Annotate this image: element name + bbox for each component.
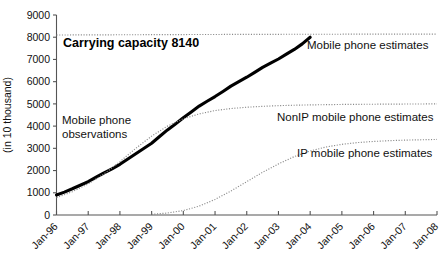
x-tick-label: Jan-97 <box>60 220 91 251</box>
x-tick-label: Jan-03 <box>251 220 282 251</box>
x-tick-label: Jan-00 <box>156 220 187 251</box>
annotation-layer: Carrying capacity 8140Mobile phoneobserv… <box>62 36 434 159</box>
y-axis-title: (in 10 thousand) <box>1 77 13 153</box>
mobile-phone-observations-label-line2: observations <box>62 128 127 140</box>
ip-mobile-phone-estimates-label: IP mobile phone estimates <box>297 147 433 159</box>
logistic-growth-line-chart: 0100020003000400050006000700080009000(in… <box>0 0 443 259</box>
y-tick-label: 9000 <box>27 9 51 21</box>
nonip-mobile-phone-estimates-label: NonIP mobile phone estimates <box>277 111 434 123</box>
y-tick-label: 0 <box>44 209 50 221</box>
y-tick-label: 3000 <box>27 142 51 154</box>
x-tick-label: Jan-04 <box>282 220 313 251</box>
y-tick-label: 7000 <box>27 53 51 65</box>
x-tick-label: Jan-96 <box>29 220 60 251</box>
mobile-phone-observations-label: Mobile phone <box>62 114 131 126</box>
y-tick-label: 4000 <box>27 120 51 132</box>
y-tick-label: 6000 <box>27 75 51 87</box>
y-tick-label: 8000 <box>27 31 51 43</box>
chart-container: 0100020003000400050006000700080009000(in… <box>0 0 443 259</box>
mobile-phone-estimates-line <box>57 34 438 35</box>
y-tick-label: 1000 <box>27 186 51 198</box>
x-tick-label: Jan-99 <box>124 220 155 251</box>
x-tick-label: Jan-05 <box>314 220 345 251</box>
x-tick-label: Jan-08 <box>409 220 440 251</box>
mobile-phone-estimates-label: Mobile phone estimates <box>307 39 429 51</box>
y-axis: 0100020003000400050006000700080009000(in… <box>1 9 57 221</box>
x-tick-label: Jan-01 <box>187 220 218 251</box>
carrying-capacity-label: Carrying capacity 8140 <box>63 36 199 50</box>
x-tick-label: Jan-06 <box>346 220 377 251</box>
x-tick-label: Jan-02 <box>219 220 250 251</box>
x-tick-label: Jan-07 <box>378 220 409 251</box>
x-tick-label: Jan-98 <box>92 220 123 251</box>
x-axis: Jan-96Jan-97Jan-98Jan-99Jan-00Jan-01Jan-… <box>29 211 441 251</box>
y-tick-label: 5000 <box>27 98 51 110</box>
y-tick-label: 2000 <box>27 164 51 176</box>
